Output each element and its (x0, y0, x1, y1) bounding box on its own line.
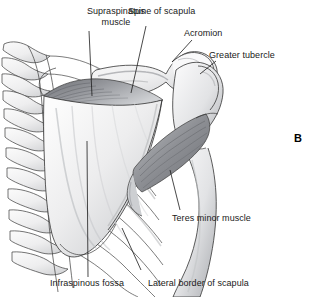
label-greater-tubercle: Greater tubercle (209, 50, 275, 61)
label-teres-minor-muscle: Teres minor muscle (172, 213, 251, 224)
shoulder-anatomy-illustration (0, 0, 310, 297)
label-spine-of-scapula: Spine of scapula (128, 6, 195, 17)
figure-panel: Supraspinatus muscle Spine of scapula Ac… (0, 0, 310, 297)
panel-letter: B (294, 132, 302, 144)
label-lateral-border-of-scapula: Lateral border of scapula (148, 278, 249, 289)
label-acromion: Acromion (184, 28, 222, 39)
label-supraspinatus-muscle-line2: muscle (68, 17, 164, 28)
label-infraspinous-fossa: Infraspinous fossa (50, 278, 124, 289)
